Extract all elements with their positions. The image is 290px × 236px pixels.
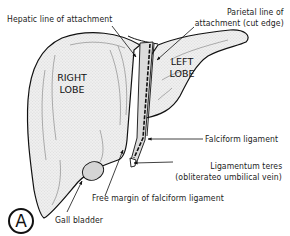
label-falciform-ligament: Falciform ligament: [205, 134, 278, 144]
liver-anatomy-diagram: RIGHT LOBE LEFT LOBE Hepatic line of att…: [0, 0, 290, 236]
panel-label-badge: A: [8, 208, 34, 234]
label-gall-bladder: Gall bladder: [55, 215, 103, 225]
label-free-margin: Free margin of falciform ligament: [92, 193, 224, 203]
left-lobe-label: LEFT LOBE: [162, 56, 202, 80]
right-lobe-label: RIGHT LOBE: [47, 72, 97, 96]
label-parietal-line-1: Parietal line of: [227, 7, 284, 17]
left-lobe-label-line2: LOBE: [162, 68, 202, 80]
label-hepatic-line: Hepatic line of attachment: [7, 14, 112, 24]
left-lobe-label-line1: LEFT: [162, 56, 202, 68]
label-parietal-line-2: attachment (cut edge): [195, 18, 284, 28]
right-lobe-label-line1: RIGHT: [47, 72, 97, 84]
leader-teres: [134, 162, 173, 163]
label-ligamentum-teres-1: Ligamentum teres: [210, 161, 282, 171]
label-ligamentum-teres-2: (obliterateo umbilical vein): [175, 172, 282, 182]
right-lobe-shape: [27, 33, 140, 218]
right-lobe-label-line2: LOBE: [47, 84, 97, 96]
